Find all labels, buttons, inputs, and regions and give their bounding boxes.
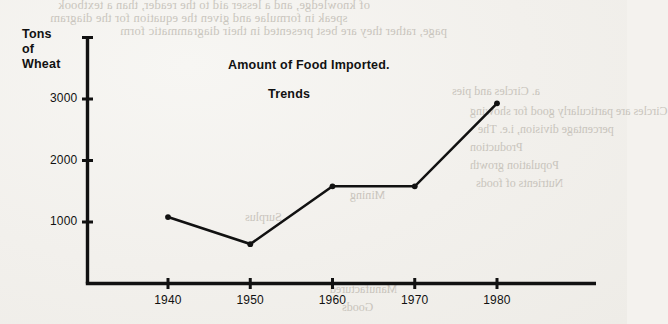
y-axis-title: Tons of Wheat [22, 27, 61, 72]
x-axis-tick-label: 1940 [138, 293, 198, 307]
x-axis-tick-label: 1970 [385, 293, 445, 307]
y-axis-tick-label: 3000 [30, 91, 78, 105]
x-axis-tick-label: 1980 [467, 293, 527, 307]
chart-title: Amount of Food Imported. [228, 58, 390, 72]
chart-subtitle: Trends [268, 87, 310, 101]
y-axis-title-line: Tons [22, 27, 61, 42]
chart-tick-marks [82, 38, 497, 290]
y-axis-tick-label: 1000 [30, 214, 78, 228]
x-axis-tick-label: 1950 [220, 293, 280, 307]
x-axis-tick-label: 1960 [303, 293, 363, 307]
y-axis-title-line: of [22, 42, 61, 57]
y-axis-tick-label: 2000 [30, 153, 78, 167]
data-point-markers [165, 100, 500, 247]
data-series-line [168, 103, 497, 244]
chart-axes [86, 38, 596, 284]
y-axis-title-line: Wheat [22, 57, 61, 72]
